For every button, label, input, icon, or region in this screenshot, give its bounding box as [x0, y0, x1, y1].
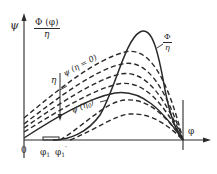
phi-of-phi-over-eta-label: Φ (φ) η: [34, 18, 60, 39]
psi-eta0-curve: [24, 93, 183, 140]
x-axis-arrow-icon: [203, 138, 211, 143]
phi1-subscript: 1: [46, 151, 50, 158]
eta-arrow-label: η: [51, 76, 56, 85]
x-axis-label: φ: [188, 127, 194, 136]
phi-of-phi-denominator: η: [34, 29, 60, 39]
phi1-prime-mark: ′: [65, 145, 67, 153]
phi1-prime-label: φ1′: [55, 148, 67, 158]
phi-curve-numerator: Φ: [163, 33, 172, 43]
y-axis-arrow-icon: [22, 13, 27, 21]
phi1-interval-bar: [43, 137, 59, 140]
origin-label: 0: [21, 146, 27, 155]
phi-of-phi-numerator: Φ (φ): [34, 18, 60, 29]
phi1-label: φ1: [40, 148, 50, 158]
psi-curve-2: [24, 63, 183, 140]
phi-curve-denominator: η: [163, 43, 172, 52]
phi-over-eta-curve-label: Φ η: [163, 33, 172, 52]
y-axis-label: ψ: [10, 20, 19, 31]
diagram-canvas: [0, 0, 217, 174]
